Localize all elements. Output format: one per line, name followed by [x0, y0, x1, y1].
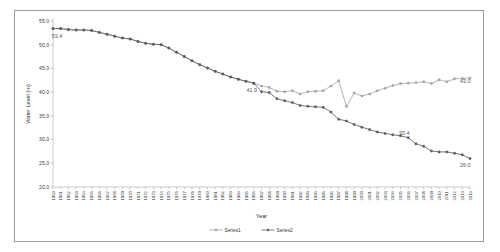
data-point	[399, 82, 402, 85]
data-point	[322, 106, 325, 109]
x-tick-label: 1964	[81, 190, 86, 200]
x-tick-label: 1968	[112, 190, 117, 200]
x-tick-label: 1983	[228, 190, 233, 200]
series-line-series2	[53, 29, 470, 159]
data-point	[75, 29, 78, 32]
y-tick-label: 55.0	[39, 18, 49, 24]
x-tick-label: 2012	[452, 190, 457, 200]
x-tick-label: 1988	[267, 190, 272, 200]
x-tick-label: 2007	[414, 190, 419, 200]
data-point	[376, 89, 379, 92]
data-point	[121, 37, 124, 40]
x-tick-label: 1975	[166, 190, 171, 200]
x-tick-label: 1976	[174, 190, 179, 200]
data-point	[114, 35, 117, 38]
x-tick-label: 2013	[460, 190, 465, 200]
data-point	[214, 70, 217, 73]
x-tick-label: 1990	[282, 190, 287, 200]
x-tick-label: 1973	[151, 190, 156, 200]
x-tick-label: 1960	[51, 190, 56, 200]
x-tick-label: 2004	[390, 190, 395, 200]
data-point	[384, 87, 387, 90]
x-tick-label: 1978	[190, 190, 195, 200]
data-point	[90, 29, 93, 32]
x-tick-label: 1977	[182, 190, 187, 200]
data-point	[291, 89, 294, 92]
y-tick-label: 50.0	[39, 42, 49, 48]
data-point	[330, 85, 333, 88]
y-tick-label: 30.0	[39, 136, 49, 142]
data-label: 30.4	[399, 130, 410, 136]
data-point	[299, 104, 302, 107]
x-tick-label: 1966	[97, 190, 102, 200]
x-tick-label: 1963	[74, 190, 79, 200]
x-axis-title: Year	[256, 213, 267, 219]
data-label: 26.0	[460, 162, 471, 168]
line-chart: 20.025.030.035.040.045.050.055.019601961…	[0, 0, 500, 252]
data-point	[222, 73, 225, 76]
x-tick-label: 1980	[205, 190, 210, 200]
data-point	[430, 150, 433, 153]
data-point	[407, 136, 410, 139]
x-tick-label: 1981	[213, 190, 218, 200]
x-tick-label: 1991	[290, 190, 295, 200]
data-point	[415, 81, 418, 84]
data-point	[361, 126, 364, 128]
data-point	[276, 98, 279, 101]
data-point	[253, 82, 256, 85]
x-tick-label: 1989	[275, 190, 280, 200]
x-tick-label: 2014	[468, 190, 473, 200]
x-tick-label: 1994	[313, 190, 318, 200]
data-label: 41.9	[247, 87, 258, 93]
data-point	[67, 28, 70, 31]
x-tick-label: 2009	[429, 190, 434, 200]
x-tick-label: 2008	[421, 190, 426, 200]
data-point	[337, 118, 340, 121]
data-point	[469, 157, 472, 160]
data-point	[59, 27, 62, 30]
legend-marker	[215, 229, 218, 232]
data-point	[260, 90, 263, 93]
y-tick-label: 20.0	[39, 184, 49, 190]
data-point	[160, 43, 163, 46]
data-point	[430, 82, 433, 85]
data-point	[353, 123, 356, 126]
data-label: 43.0	[460, 78, 471, 84]
data-point	[314, 106, 317, 109]
data-point	[392, 134, 395, 137]
data-point	[446, 151, 449, 154]
x-tick-label: 1987	[259, 190, 264, 200]
data-point	[229, 76, 232, 79]
x-tick-label: 1962	[66, 190, 71, 200]
data-point	[98, 31, 101, 34]
x-tick-label: 1996	[329, 190, 334, 200]
data-point	[129, 38, 132, 41]
x-tick-label: 2005	[398, 190, 403, 200]
x-tick-label: 1967	[105, 190, 110, 200]
x-tick-label: 1972	[143, 190, 148, 200]
series-line-series1	[53, 29, 470, 107]
data-label: 53.4	[52, 33, 63, 39]
data-point	[268, 91, 271, 94]
data-point	[137, 40, 140, 43]
data-point	[446, 80, 449, 83]
data-point	[191, 60, 194, 63]
y-tick-label: 45.0	[39, 65, 49, 71]
x-tick-label: 2002	[375, 190, 380, 200]
x-tick-label: 1997	[336, 190, 341, 200]
data-point	[175, 51, 178, 54]
data-point	[52, 27, 55, 30]
x-tick-label: 1999	[352, 190, 357, 200]
data-point	[438, 79, 441, 82]
data-point	[422, 145, 425, 148]
x-tick-label: 2010	[437, 190, 442, 200]
data-point	[314, 90, 317, 93]
x-tick-label: 1995	[321, 190, 326, 200]
data-point	[422, 80, 425, 83]
x-tick-label: 1971	[136, 190, 141, 200]
data-point	[461, 153, 464, 156]
data-point	[144, 42, 147, 45]
legend-label: Series1	[225, 228, 242, 233]
legend-marker	[267, 229, 270, 232]
x-tick-label: 2006	[406, 190, 411, 200]
